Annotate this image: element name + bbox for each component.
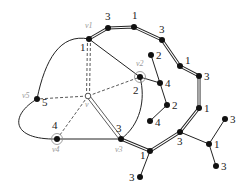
node-inner-2 — [164, 102, 170, 108]
node-pendant-1 — [206, 141, 212, 147]
weight-inner-3: 4 — [155, 116, 161, 128]
weight-inner-2: 2 — [172, 99, 178, 111]
node-chain-7 — [147, 148, 153, 154]
weight-pendant-0: 3 — [129, 171, 135, 183]
node-chain-3 — [177, 63, 183, 69]
node-center-v — [85, 93, 91, 99]
label-v4: v4 — [52, 145, 60, 154]
node-v5 — [34, 96, 40, 102]
edge-v3-v2 — [121, 77, 142, 139]
node-chain-4 — [196, 73, 202, 79]
spoke-v-v4 — [57, 96, 88, 139]
spoke-v-v1-a — [87, 39, 88, 96]
node-v3 — [118, 136, 124, 142]
weight-pendant-1: 1 — [214, 138, 220, 150]
weight-v2: 2 — [133, 84, 139, 96]
weight-pendant-2: 3 — [230, 113, 236, 125]
graph-diagram: v1 v2 v3 v4 v5 v 1 2 3 4 5 3 1 3 1 3 1 3… — [0, 0, 247, 194]
node-inner-1 — [157, 80, 163, 86]
weight-chain-3: 1 — [185, 54, 191, 66]
weight-chain-1: 1 — [132, 9, 138, 21]
weight-chain-5: 1 — [204, 102, 210, 114]
node-pendant-2 — [222, 116, 228, 122]
label-v2: v2 — [136, 59, 144, 68]
edge-chain3-right1 — [180, 132, 209, 144]
label-v: v — [85, 100, 89, 109]
node-pendant-3 — [213, 163, 219, 169]
weight-chain-7: 1 — [140, 149, 146, 161]
node-chain-1 — [131, 24, 137, 30]
weight-v1: 1 — [80, 41, 86, 53]
weight-inner-1: 4 — [165, 77, 171, 89]
label-v1: v1 — [85, 21, 93, 30]
weight-chain-4: 3 — [204, 70, 210, 82]
face-boundary — [19, 38, 142, 139]
weight-chain-2: 3 — [159, 23, 165, 35]
label-v3: v3 — [115, 145, 123, 154]
weight-inner-0: 2 — [156, 49, 162, 61]
weight-labels: 1 2 3 4 5 3 1 3 1 3 1 3 1 2 4 2 4 3 1 3 … — [42, 9, 236, 183]
weight-chain-0: 3 — [105, 10, 111, 22]
edge-v2-v1 — [89, 39, 140, 77]
weight-v5: 5 — [42, 96, 48, 108]
label-v5: v5 — [22, 91, 30, 100]
weight-pendant-3: 3 — [221, 160, 227, 172]
weight-chain-6: 3 — [177, 135, 183, 147]
node-v4 — [54, 136, 60, 142]
single-edges — [140, 55, 225, 177]
node-inner-0 — [148, 52, 154, 58]
node-pendant-0 — [137, 174, 143, 180]
node-v1 — [86, 36, 92, 42]
node-chain-2 — [159, 37, 165, 43]
edge-v2-inner4 — [140, 77, 160, 83]
node-v2 — [137, 74, 143, 80]
node-chain-5 — [196, 105, 202, 111]
weight-v4: 4 — [52, 119, 58, 131]
node-inner-3 — [147, 118, 153, 124]
node-chain-0 — [105, 25, 111, 31]
spoke-v-v1-b — [90, 39, 91, 96]
weight-v3: 3 — [116, 122, 122, 134]
